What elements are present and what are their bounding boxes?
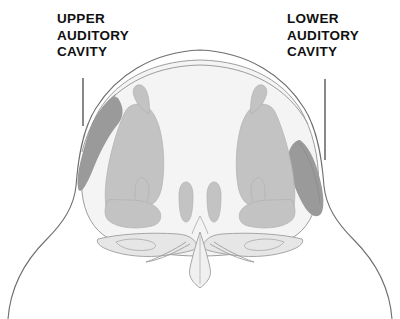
upper-auditory-cavity-label-line-1: UPPER <box>57 11 129 28</box>
lower-auditory-cavity-label-line-1: LOWER <box>287 11 359 28</box>
lower-auditory-cavity-label-line-3: CAVITY <box>287 44 359 61</box>
upper-auditory-cavity-label-line-3: CAVITY <box>57 44 129 61</box>
lower-auditory-cavity-label-line-2: AUDITORY <box>287 28 359 45</box>
upper-auditory-cavity-label: UPPER AUDITORY CAVITY <box>57 11 129 61</box>
nasal-cavity-right <box>207 182 221 222</box>
upper-auditory-cavity-label-line-2: AUDITORY <box>57 28 129 45</box>
nasal-cavity-left <box>179 182 193 222</box>
lower-auditory-cavity-label: LOWER AUDITORY CAVITY <box>287 11 359 61</box>
